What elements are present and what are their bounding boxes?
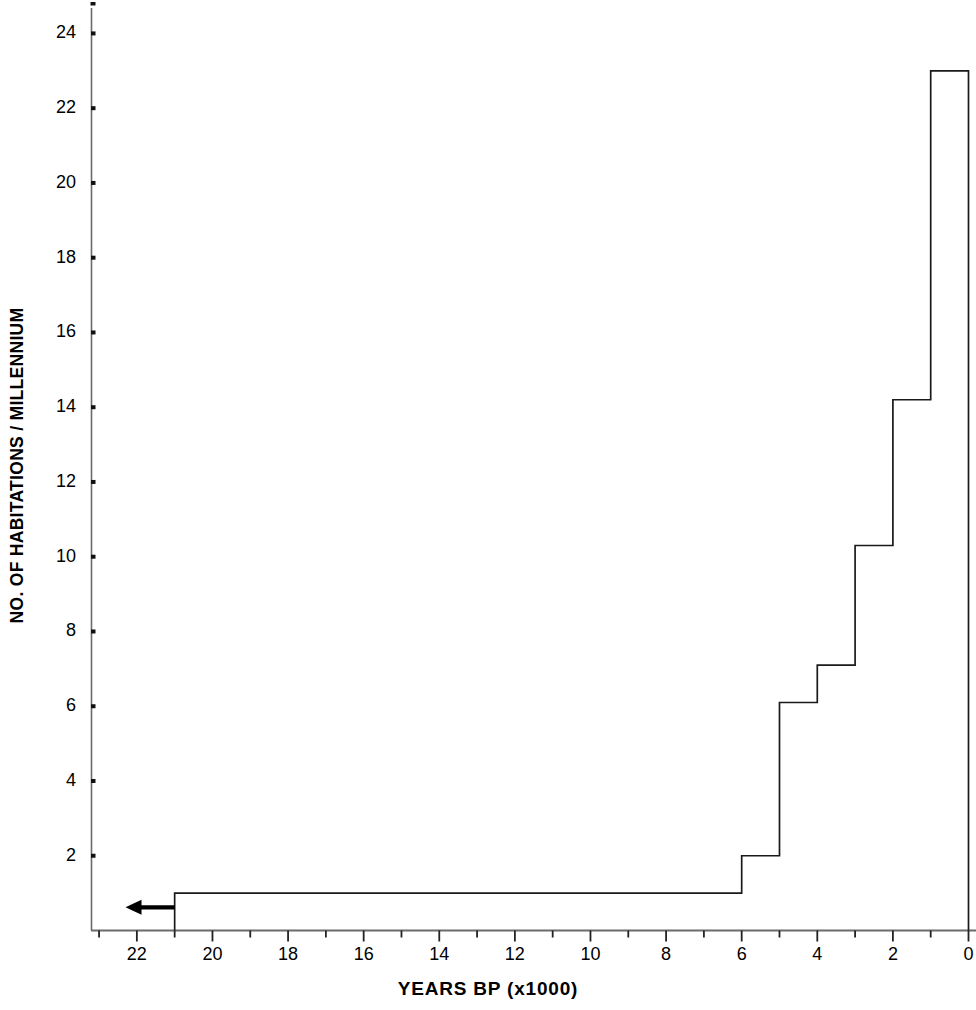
chart-background — [0, 0, 976, 1010]
y-tick-mark — [91, 2, 96, 6]
y-tick-label: 18 — [42, 247, 76, 268]
x-tick-label: 0 — [949, 944, 976, 965]
x-tick-label: 18 — [268, 944, 308, 965]
y-tick-mark — [91, 555, 96, 559]
y-tick-label: 14 — [42, 396, 76, 417]
y-tick-mark — [91, 405, 96, 409]
x-tick-label: 6 — [722, 944, 762, 965]
x-tick-label: 14 — [419, 944, 459, 965]
y-tick-mark — [91, 629, 96, 633]
y-tick-mark — [91, 779, 96, 783]
x-axis-title-text: YEARS BP (x1000) — [398, 978, 578, 999]
y-tick-label: 12 — [42, 471, 76, 492]
x-tick-label: 20 — [192, 944, 232, 965]
y-tick-label: 24 — [42, 22, 76, 43]
y-tick-label: 10 — [42, 546, 76, 567]
chart-figure: NO. OF HABITATIONS / MILLENNIUM YEARS BP… — [0, 0, 976, 1010]
x-tick-label: 16 — [344, 944, 384, 965]
y-tick-label: 22 — [42, 97, 76, 118]
x-tick-label: 2 — [873, 944, 913, 965]
x-axis-title: YEARS BP (x1000) — [0, 978, 976, 1000]
y-tick-mark — [91, 181, 96, 185]
y-tick-label: 16 — [42, 321, 76, 342]
y-tick-mark — [91, 480, 96, 484]
x-tick-label: 12 — [495, 944, 535, 965]
x-tick-label: 4 — [797, 944, 837, 965]
y-tick-mark — [91, 106, 96, 110]
x-tick-label: 8 — [646, 944, 686, 965]
y-tick-label: 4 — [42, 770, 76, 791]
y-tick-mark — [91, 330, 96, 334]
y-tick-label: 6 — [42, 695, 76, 716]
y-tick-mark — [91, 31, 96, 35]
y-tick-mark — [91, 256, 96, 260]
y-tick-label: 8 — [42, 620, 76, 641]
x-tick-label: 22 — [117, 944, 157, 965]
y-tick-label: 20 — [42, 172, 76, 193]
y-tick-mark — [91, 704, 96, 708]
y-tick-mark — [91, 854, 96, 858]
step-chart-plot — [0, 0, 976, 1010]
x-tick-label: 10 — [570, 944, 610, 965]
y-tick-label: 2 — [42, 845, 76, 866]
